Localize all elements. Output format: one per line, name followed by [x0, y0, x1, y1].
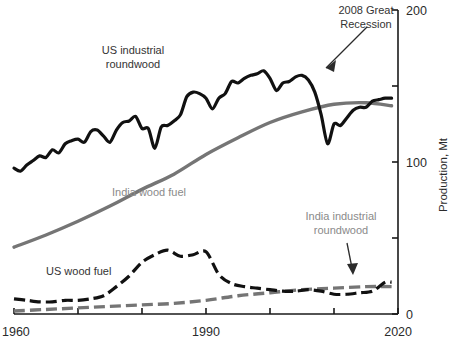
- label-india-industrial-roundwood-line2: roundwood: [314, 224, 368, 236]
- x-tick-label-1990: 1990: [192, 325, 220, 339]
- y-axis-title: Production, Mt: [437, 137, 449, 212]
- label-2008-great-recession: 2008 Great Recession: [338, 4, 393, 30]
- y-tick-label-0: 0: [406, 308, 413, 322]
- x-tick-label-1960: 1960: [2, 325, 30, 339]
- annotation-recession-arrow: [326, 27, 367, 72]
- label-recession-line1: 2008 Great: [338, 4, 393, 16]
- label-india-wood-fuel: India wood fuel: [112, 186, 186, 198]
- label-india-industrial-roundwood-line1: India industrial: [306, 210, 377, 222]
- y-tick-label-200: 200: [406, 4, 427, 18]
- annotation-india-industrial-arrow: [347, 243, 358, 275]
- label-us-industrial-roundwood: US industrial roundwood: [102, 44, 164, 70]
- label-us-industrial-roundwood-line1: US industrial: [102, 44, 164, 56]
- chart-plot: 1960 1990 2020 0 100 200 Production, Mt …: [0, 0, 457, 343]
- label-us-wood-fuel: US wood fuel: [46, 265, 111, 277]
- y-axis-ticks: [392, 10, 398, 314]
- y-tick-label-100: 100: [406, 156, 427, 170]
- label-india-industrial-roundwood: India industrial roundwood: [306, 210, 377, 236]
- x-tick-label-2020: 2020: [384, 325, 412, 339]
- label-us-industrial-roundwood-line2: roundwood: [106, 58, 160, 70]
- label-recession-line2: Recession: [340, 18, 391, 30]
- chart-container: 1960 1990 2020 0 100 200 Production, Mt …: [0, 0, 457, 343]
